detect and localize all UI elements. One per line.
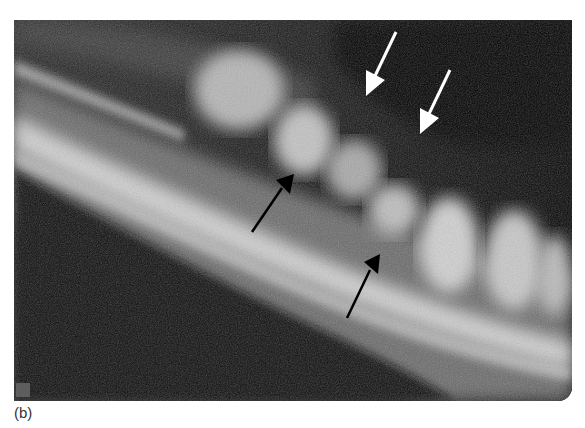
corner-marker [16,383,30,397]
radiograph-drawing [14,20,572,401]
figure-label: (b) [14,404,32,421]
radiograph-image [14,20,572,401]
